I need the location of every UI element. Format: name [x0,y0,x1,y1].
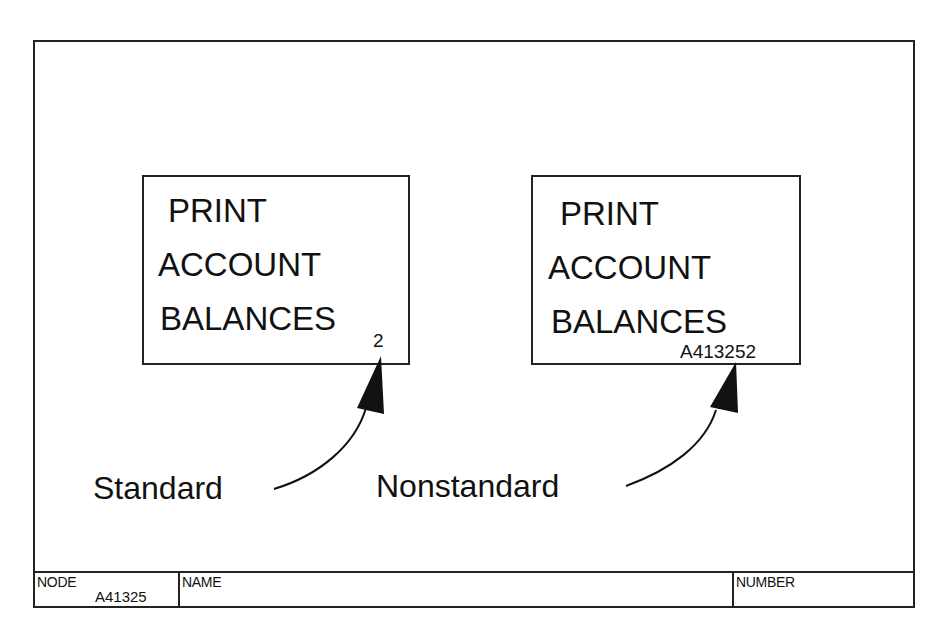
name-label: NAME [182,574,221,590]
arrow-standard [274,356,384,489]
caption-standard: Standard [93,472,223,504]
node-cell: NODE A41325 [35,573,180,606]
callout-arrows [0,0,952,644]
caption-nonstandard: Nonstandard [376,470,559,502]
node-label: NODE [37,574,76,590]
number-label: NUMBER [736,574,795,590]
arrow-nonstandard [626,362,738,486]
number-cell: NUMBER [734,573,913,606]
name-cell: NAME [180,573,734,606]
title-block: NODE A41325 NAME NUMBER [33,571,915,608]
node-value: A41325 [95,588,147,605]
